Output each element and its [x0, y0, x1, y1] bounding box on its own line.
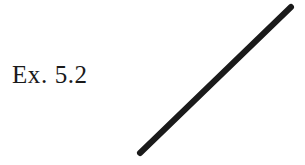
diagonal-line-segment [140, 7, 291, 153]
diagonal-line-graphic [0, 0, 305, 165]
figure-canvas: Ex. 5.2 [0, 0, 305, 165]
